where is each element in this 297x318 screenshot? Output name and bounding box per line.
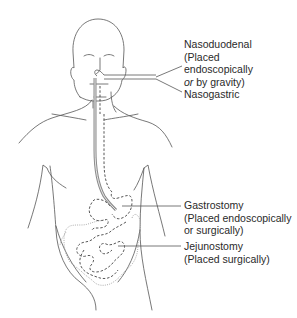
feeding-tube-band xyxy=(95,78,116,210)
right-arm-line xyxy=(134,165,165,236)
nasoduodenal-leader xyxy=(156,66,182,77)
nose xyxy=(96,58,100,74)
nasoduodenal-title: Nasoduodenal xyxy=(184,38,253,51)
right-shoulder xyxy=(114,106,172,147)
right-eye xyxy=(104,55,114,57)
jejunostomy-line1: (Placed surgically) xyxy=(184,253,270,266)
gastrostomy-title: Gastrostomy xyxy=(184,199,291,212)
label-nasoduodenal: Nasoduodenal (Placed endoscopically or b… xyxy=(184,38,253,88)
nasogastric-title: Nasogastric xyxy=(184,88,239,101)
nasoduodenal-or: or xyxy=(184,76,193,88)
large-intestine xyxy=(64,214,141,285)
label-jejunostomy: Jejunostomy (Placed surgically) xyxy=(184,240,270,265)
feeding-tube-core xyxy=(95,78,116,210)
nasal-tube-loop xyxy=(95,70,104,76)
nasogastric-leader xyxy=(156,79,182,92)
right-torso xyxy=(140,168,152,310)
head-outline xyxy=(71,19,126,101)
gastrostomy-line2: or surgically) xyxy=(184,224,291,237)
small-intestine xyxy=(77,222,126,272)
label-gastrostomy: Gastrostomy (Placed endoscopically or su… xyxy=(184,199,291,237)
duodenum xyxy=(89,199,110,230)
left-torso xyxy=(50,166,96,310)
nasoduodenal-line3-rest: by gravity) xyxy=(193,76,244,88)
left-arm-line xyxy=(28,165,66,228)
neck-right xyxy=(111,92,116,112)
nasoduodenal-line1: (Placed xyxy=(184,51,253,64)
left-eye xyxy=(84,55,94,57)
left-clavicle xyxy=(52,114,86,120)
jejunostomy-title: Jejunostomy xyxy=(184,240,270,253)
left-shoulder xyxy=(19,100,92,143)
nasoduodenal-line3: or by gravity) xyxy=(184,76,253,89)
label-nasogastric: Nasogastric xyxy=(184,88,239,101)
gastrostomy-line1: (Placed endoscopically xyxy=(184,212,291,225)
colon-ascending xyxy=(60,232,66,246)
nasoduodenal-line2: endoscopically xyxy=(184,63,253,76)
